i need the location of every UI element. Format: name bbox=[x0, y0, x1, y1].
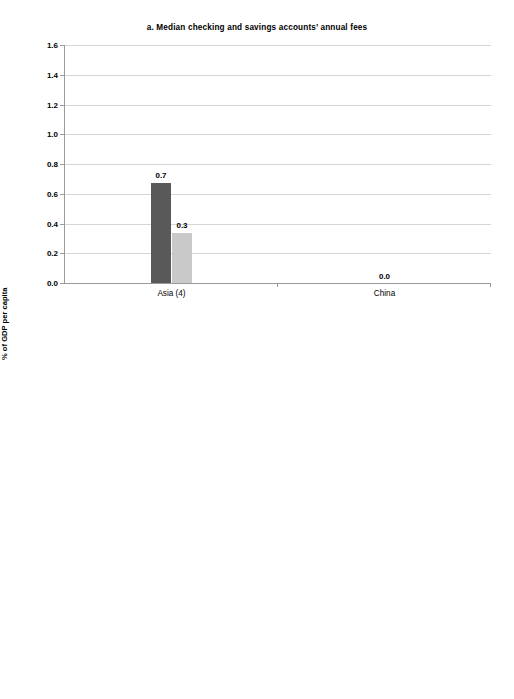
y-axis-tick-label: 0.8 bbox=[24, 160, 58, 169]
bar: 0.7 bbox=[151, 183, 171, 283]
chart-a-title: a. Median checking and savings accounts’… bbox=[0, 23, 514, 32]
y-axis-tick-label: 1.6 bbox=[24, 41, 58, 50]
y-axis-tick-mark bbox=[60, 75, 64, 76]
y-axis-tick-mark bbox=[60, 134, 64, 135]
category-label: China bbox=[278, 283, 491, 299]
y-axis-tick-label: 1.2 bbox=[24, 100, 58, 109]
category-label: Asia (4) bbox=[65, 283, 278, 299]
category-label-line: Asia (4) bbox=[65, 288, 278, 299]
chart-panel-a: a. Median checking and savings accounts’… bbox=[0, 0, 514, 360]
bar-value-label: 0.3 bbox=[176, 221, 187, 230]
bar: 0.3 bbox=[172, 233, 192, 283]
bar-group: 0.0China bbox=[278, 45, 491, 283]
chart-panel-b: b. Median loan fees % of GDP per capita bbox=[0, 360, 514, 699]
chart-a-plot-area: 0.70.3Asia (4)0.0China bbox=[64, 45, 491, 284]
y-axis-tick-label: 1.4 bbox=[24, 70, 58, 79]
y-axis-tick-mark bbox=[60, 45, 64, 46]
y-axis-tick-label: 0.6 bbox=[24, 189, 58, 198]
category-divider bbox=[490, 283, 491, 287]
category-label-line: China bbox=[278, 288, 491, 299]
chart-a-bar-groups: 0.70.3Asia (4)0.0China bbox=[65, 45, 491, 283]
y-axis-tick-mark bbox=[60, 283, 64, 284]
bar-value-label: 0.0 bbox=[379, 272, 390, 281]
bar-set: 0.0 bbox=[365, 45, 405, 283]
y-axis-tick-label: 0.2 bbox=[24, 249, 58, 258]
y-axis-tick-mark bbox=[60, 105, 64, 106]
bar-set: 0.70.3 bbox=[151, 45, 192, 283]
y-axis-tick-mark bbox=[60, 253, 64, 254]
y-axis-tick-mark bbox=[60, 194, 64, 195]
bar-group: 0.70.3Asia (4) bbox=[65, 45, 278, 283]
bar-value-label: 0.7 bbox=[155, 171, 166, 180]
y-axis-tick-mark bbox=[60, 224, 64, 225]
y-axis-tick-label: 1.0 bbox=[24, 130, 58, 139]
y-axis-tick-mark bbox=[60, 164, 64, 165]
y-axis-tick-label: 0.4 bbox=[24, 219, 58, 228]
y-axis-tick-label: 0.0 bbox=[24, 279, 58, 288]
chart-b-y-axis-label: % of GDP per capita bbox=[0, 288, 9, 360]
